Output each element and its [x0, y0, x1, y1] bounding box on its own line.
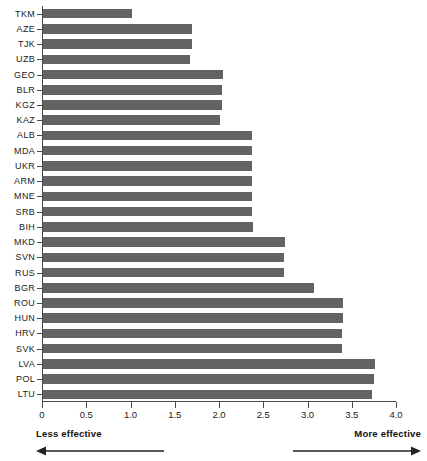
- x-axis-tick: [396, 402, 397, 408]
- annotation-less-effective-label: Less effective: [36, 428, 206, 440]
- bar-hrv: [43, 329, 342, 339]
- bar-row: [43, 85, 396, 95]
- bar-row: [43, 192, 396, 202]
- x-axis-tick: [131, 402, 132, 408]
- y-axis-label-bgr: BGR: [15, 283, 35, 293]
- y-axis-label-mne: MNE: [14, 191, 35, 201]
- bar-row: [43, 344, 396, 354]
- y-axis-label-mkd: MKD: [14, 237, 35, 247]
- y-axis-label-svk: SVK: [16, 344, 35, 354]
- plot-area: [42, 6, 396, 402]
- x-axis-tick: [352, 402, 353, 408]
- x-axis-tick-label: 2.0: [212, 409, 225, 421]
- bar-row: [43, 268, 396, 278]
- bar-row: [43, 207, 396, 217]
- annotation-more-effective: More effective: [241, 428, 421, 461]
- x-axis-tick-label: 2.5: [257, 409, 270, 421]
- x-axis-tick-label: 0.5: [80, 409, 93, 421]
- bar-row: [43, 374, 396, 384]
- bar-alb: [43, 131, 252, 141]
- bar-row: [43, 222, 396, 232]
- y-axis-label-rou: ROU: [14, 298, 35, 308]
- bar-rows: [43, 6, 396, 401]
- bar-bgr: [43, 283, 314, 293]
- y-axis-label-tjk: TJK: [18, 39, 35, 49]
- x-axis-tick: [86, 402, 87, 408]
- bar-arm: [43, 176, 252, 186]
- annotation-more-effective-label: More effective: [241, 428, 421, 440]
- bar-mkd: [43, 237, 285, 247]
- y-axis-label-ukr: UKR: [15, 161, 35, 171]
- bar-row: [43, 70, 396, 80]
- bar-row: [43, 100, 396, 110]
- bar-rus: [43, 268, 284, 278]
- y-axis-labels: TKMAZETJKUZBGEOBLRKGZKAZALBMDAUKRARMMNES…: [0, 6, 42, 402]
- bar-row: [43, 329, 396, 339]
- bar-mda: [43, 146, 252, 156]
- x-axis-tick-label: 4.0: [389, 409, 402, 421]
- x-axis-tick: [219, 402, 220, 408]
- bar-row: [43, 9, 396, 19]
- bar-srb: [43, 207, 252, 217]
- bar-kgz: [43, 100, 222, 110]
- bar-mne: [43, 192, 252, 202]
- y-axis-label-rus: RUS: [15, 268, 35, 278]
- arrow-right-icon: [241, 443, 421, 455]
- bar-row: [43, 115, 396, 125]
- bar-uzb: [43, 55, 190, 65]
- bar-row: [43, 55, 396, 65]
- y-axis-label-kgz: KGZ: [16, 100, 35, 110]
- bar-row: [43, 390, 396, 400]
- x-axis-tick-labels: 00.51.01.52.02.53.03.54.0: [0, 409, 427, 423]
- x-axis-tick: [308, 402, 309, 408]
- arrow-left-icon: [36, 443, 206, 455]
- y-axis-label-arm: ARM: [14, 176, 35, 186]
- y-axis-label-geo: GEO: [14, 70, 35, 80]
- bar-aze: [43, 24, 192, 34]
- bar-svn: [43, 253, 284, 263]
- horizontal-bar-chart: TKMAZETJKUZBGEOBLRKGZKAZALBMDAUKRARMMNES…: [0, 0, 427, 461]
- bar-tkm: [43, 9, 132, 19]
- bar-row: [43, 176, 396, 186]
- x-axis-tick-label: 1.5: [168, 409, 181, 421]
- bar-geo: [43, 70, 223, 80]
- y-axis-label-hun: HUN: [15, 313, 35, 323]
- y-axis-label-uzb: UZB: [16, 54, 35, 64]
- x-axis-tick-label: 1.0: [124, 409, 137, 421]
- bar-lva: [43, 359, 375, 369]
- y-axis-label-blr: BLR: [17, 85, 35, 95]
- axis-annotations: Less effective More effective: [0, 428, 427, 461]
- x-axis-tick: [263, 402, 264, 408]
- annotation-less-effective: Less effective: [36, 428, 206, 461]
- bar-tjk: [43, 39, 192, 49]
- bar-rou: [43, 298, 343, 308]
- bar-pol: [43, 374, 374, 384]
- x-axis-tick-label: 3.5: [345, 409, 358, 421]
- bar-row: [43, 298, 396, 308]
- bar-row: [43, 161, 396, 171]
- bar-ukr: [43, 161, 252, 171]
- y-axis-label-aze: AZE: [17, 24, 35, 34]
- y-axis-label-srb: SRB: [16, 207, 35, 217]
- bar-blr: [43, 85, 222, 95]
- y-axis-label-svn: SVN: [16, 252, 35, 262]
- y-axis-label-hrv: HRV: [15, 328, 35, 338]
- x-axis-tick-label: 0: [39, 409, 44, 421]
- bar-bih: [43, 222, 253, 232]
- x-axis-tick: [175, 402, 176, 408]
- bar-row: [43, 253, 396, 263]
- y-axis-label-lva: LVA: [18, 359, 35, 369]
- y-axis-label-tkm: TKM: [15, 9, 35, 19]
- bar-row: [43, 146, 396, 156]
- bar-row: [43, 39, 396, 49]
- y-axis-label-mda: MDA: [14, 146, 35, 156]
- bar-row: [43, 359, 396, 369]
- bar-svk: [43, 344, 342, 354]
- bar-row: [43, 131, 396, 141]
- y-axis-label-pol: POL: [16, 374, 35, 384]
- bar-row: [43, 24, 396, 34]
- bar-row: [43, 313, 396, 323]
- bar-kaz: [43, 115, 220, 125]
- bar-hun: [43, 313, 343, 323]
- y-axis-label-kaz: KAZ: [17, 115, 35, 125]
